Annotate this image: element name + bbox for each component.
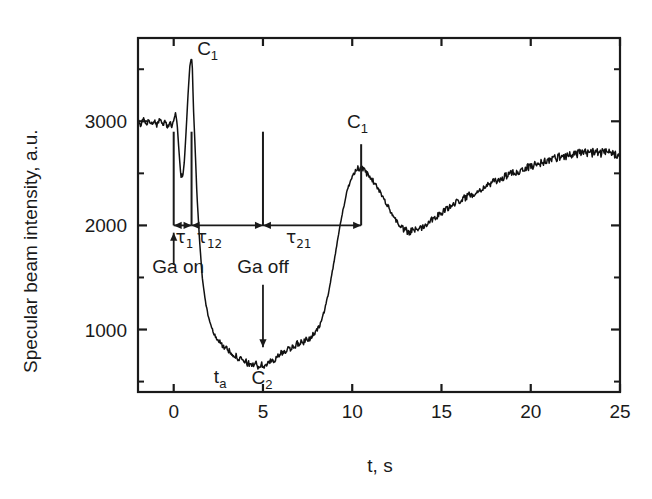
figure-container: Specular beam intensity, a.u. t, s 05101… [0,0,652,499]
x-tick-label: 20 [520,401,541,422]
ga-off-label: Ga off [237,256,289,277]
y-tick-label: 2000 [85,215,127,236]
y-tick-label: 1000 [85,320,127,341]
x-tick-label: 0 [168,401,179,422]
y-tick-label: 3000 [85,111,127,132]
x-tick-label: 15 [431,401,452,422]
x-axis-title: t, s [367,455,392,476]
chart-background [0,0,652,499]
x-tick-label: 25 [609,401,630,422]
ga-on-label: Ga on [152,256,204,277]
x-tick-label: 10 [342,401,363,422]
y-axis-title: Specular beam intensity, a.u. [20,129,41,373]
specular-beam-intensity-chart: Specular beam intensity, a.u. t, s 05101… [0,0,652,499]
x-tick-label: 5 [258,401,269,422]
